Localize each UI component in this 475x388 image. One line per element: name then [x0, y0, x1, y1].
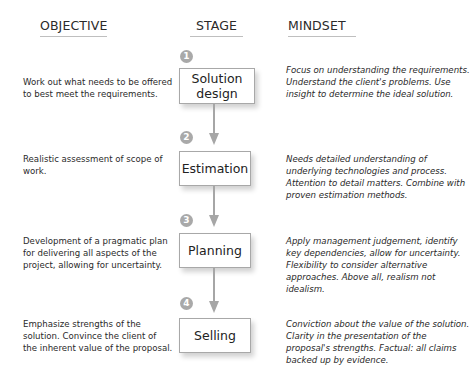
column-header-stage: STAGE — [190, 18, 243, 37]
stage-3-objective: Development of a pragmatic plan for deli… — [23, 235, 173, 271]
arrow-2-3-head-icon — [209, 215, 219, 227]
stage-1-box: Solution design — [179, 68, 255, 104]
stage-3-mindset: Apply management judgement, identify key… — [286, 235, 471, 295]
stage-1-objective: Work out what needs to be offered to bes… — [23, 76, 173, 100]
column-header-mindset: MINDSET — [288, 18, 356, 37]
stage-4-badge: 4 — [180, 297, 193, 310]
arrow-2-3-line — [213, 186, 215, 216]
arrow-3-4-head-icon — [209, 301, 219, 313]
arrow-1-2-head-icon — [209, 133, 219, 145]
stage-2-badge: 2 — [180, 131, 193, 144]
stage-2-mindset: Needs detailed understanding of underlyi… — [286, 153, 471, 201]
arrow-1-2-line — [213, 104, 215, 134]
stage-4-mindset: Conviction about the value of the soluti… — [286, 318, 471, 366]
stage-4-box: Selling — [179, 318, 251, 353]
stage-2-objective: Realistic assessment of scope of work. — [23, 153, 173, 177]
stage-1-badge: 1 — [180, 50, 193, 63]
stage-2-box: Estimation — [179, 151, 251, 186]
stage-3-box: Planning — [179, 233, 251, 268]
column-header-objective: OBJECTIVE — [40, 18, 107, 37]
stage-4-objective: Emphasize strengths of the solution. Con… — [23, 318, 173, 354]
arrow-3-4-line — [213, 268, 215, 302]
stage-3-badge: 3 — [180, 214, 193, 227]
stage-1-mindset: Focus on understanding the requirements.… — [286, 64, 471, 100]
